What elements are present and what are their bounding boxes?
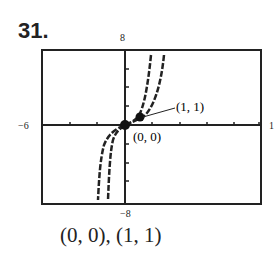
window-frame	[42, 50, 261, 204]
label-1-1: (1, 1)	[176, 99, 204, 114]
graph: (1, 1) (0, 0)	[0, 0, 275, 260]
point-origin	[120, 120, 130, 130]
curve-1	[108, 55, 151, 200]
label-0-0: (0, 0)	[133, 129, 161, 144]
answer-text: (0, 0), (1, 1)	[60, 223, 161, 248]
